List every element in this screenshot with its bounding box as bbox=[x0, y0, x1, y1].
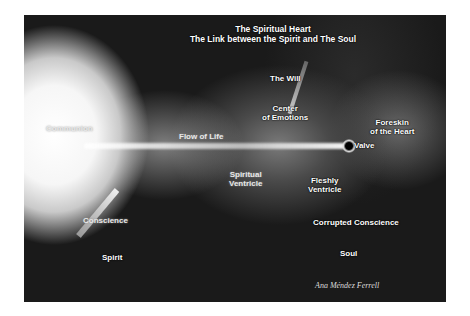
title-line-2: The Link between the Spirit and The Soul bbox=[173, 34, 373, 44]
title-line-1: The Spiritual Heart bbox=[173, 24, 373, 34]
label-soul: Soul bbox=[340, 249, 357, 258]
conscience-spike bbox=[76, 188, 119, 238]
label-spiritual-ventricle: Spiritual Ventricle bbox=[229, 170, 262, 188]
label-center-of-emotions: Center of Emotions bbox=[262, 104, 308, 122]
label-emotions-line: of Emotions bbox=[262, 113, 308, 122]
artist-signature: Ana Méndez Ferrell bbox=[315, 281, 379, 290]
label-the-will: The Will bbox=[270, 74, 301, 83]
label-foreskin-of-heart: Foreskin of the Heart bbox=[370, 118, 414, 136]
label-foreskin-line: Foreskin bbox=[370, 118, 414, 127]
label-valve: Valve bbox=[354, 141, 374, 150]
label-communion: Communion bbox=[46, 124, 93, 133]
spiritual-heart-illustration bbox=[24, 15, 446, 302]
label-fleshly-line: Fleshly bbox=[308, 176, 341, 185]
label-conscience: Conscience bbox=[83, 216, 128, 225]
label-corrupted-conscience: Corrupted Conscience bbox=[313, 218, 399, 227]
diagram-title: The Spiritual Heart The Link between the… bbox=[173, 24, 373, 44]
label-fleshly-ventricle: Fleshly Ventricle bbox=[308, 176, 341, 194]
label-spirit: Spirit bbox=[102, 253, 122, 262]
flow-of-life-beam bbox=[84, 143, 349, 149]
label-spiritual-line: Spiritual bbox=[229, 170, 262, 179]
label-flow-of-life: Flow of Life bbox=[179, 132, 223, 141]
label-fleshly-ventricle-line: Ventricle bbox=[308, 185, 341, 194]
label-center-line: Center bbox=[262, 104, 308, 113]
label-of-heart-line: of the Heart bbox=[370, 127, 414, 136]
label-ventricle-line: Ventricle bbox=[229, 179, 262, 188]
